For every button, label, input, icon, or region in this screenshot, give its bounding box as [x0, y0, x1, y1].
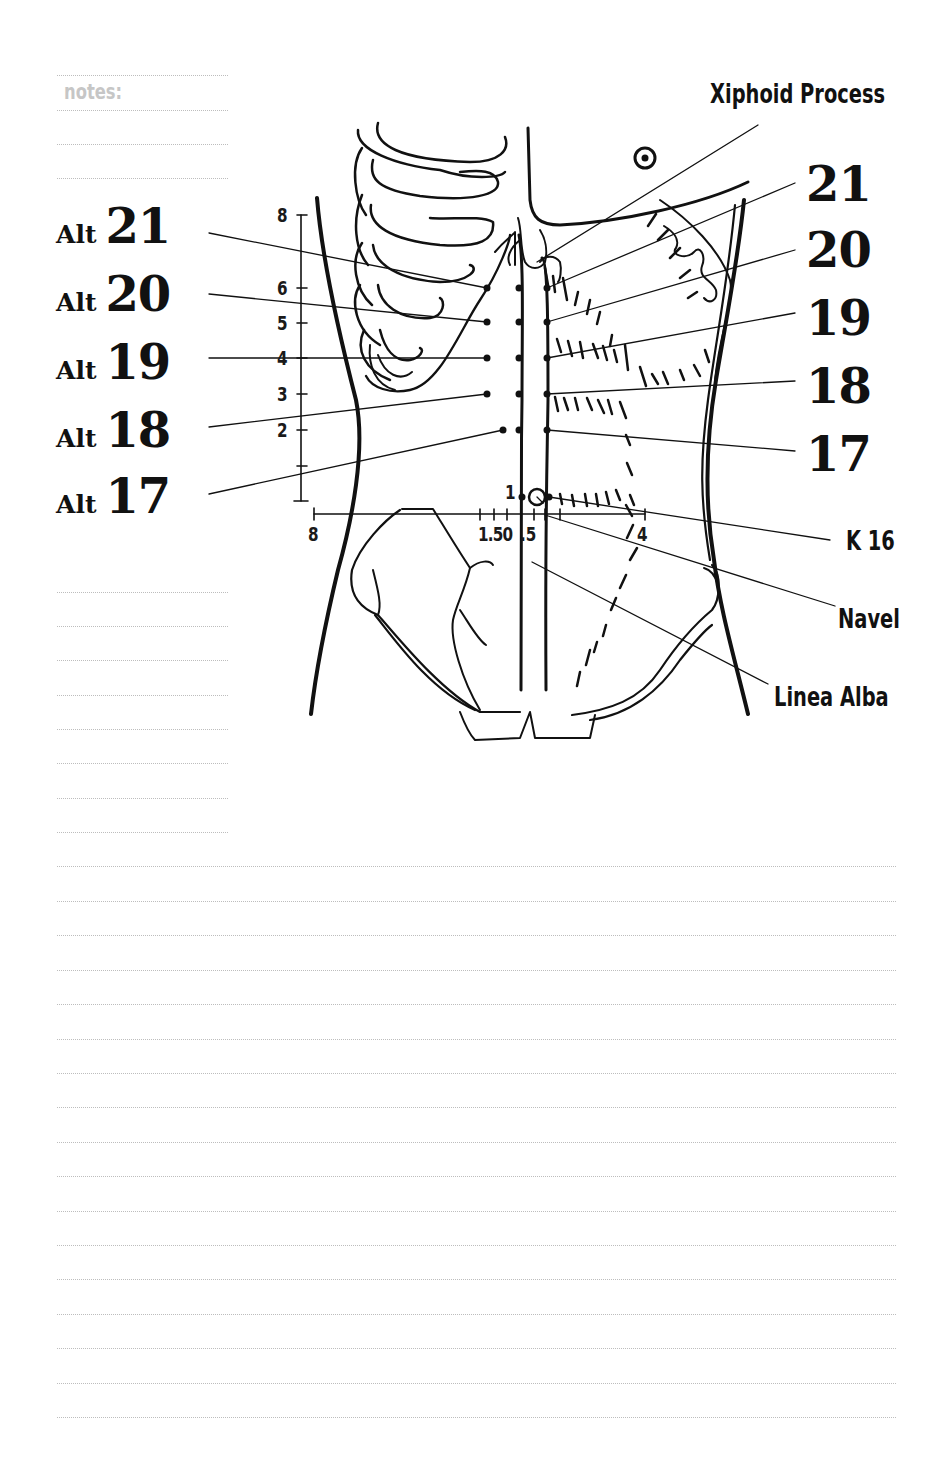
costal-margin: [366, 235, 510, 391]
acupoint-dots: [484, 285, 553, 501]
alt-17-label: Alt 17: [56, 468, 170, 524]
alt-number: 21: [105, 198, 170, 254]
note-line[interactable]: [57, 901, 896, 902]
note-line[interactable]: [57, 1039, 896, 1040]
note-line[interactable]: [57, 763, 228, 764]
h-scale-label-8: 8: [308, 523, 319, 545]
note-line[interactable]: [57, 970, 896, 971]
alt-prefix: Alt: [56, 490, 96, 519]
v-scale-label-5: 5: [277, 312, 288, 334]
xiphoid-process-label: Xiphoid Process: [710, 78, 885, 109]
linea-alba-label: Linea Alba: [774, 681, 889, 712]
rib-cage: [377, 123, 506, 162]
k16-label: K 16: [846, 525, 895, 556]
navel-level-label: 1: [505, 481, 516, 503]
h-scale-label-1-5: 1.50: [478, 523, 512, 545]
v-scale-label-3: 3: [277, 383, 288, 405]
note-line[interactable]: [57, 832, 228, 833]
alt-21-label: Alt 21: [56, 198, 170, 254]
v-scale-label-4: 4: [277, 347, 288, 369]
note-line[interactable]: [57, 1348, 896, 1349]
v-scale-label-8: 8: [277, 204, 288, 226]
note-line[interactable]: [57, 798, 228, 799]
note-line[interactable]: [57, 1383, 896, 1384]
horizontal-scale: [314, 508, 645, 520]
alt-prefix: Alt: [56, 220, 96, 249]
note-line[interactable]: [57, 1245, 896, 1246]
torso-outline-right: [707, 200, 748, 714]
alt-20-label: Alt 20: [56, 266, 170, 322]
alt-number: 20: [105, 266, 170, 322]
note-line[interactable]: [57, 1142, 896, 1143]
note-line[interactable]: [57, 866, 896, 867]
note-line[interactable]: [57, 1107, 896, 1108]
point-21-label: 21: [806, 156, 871, 212]
alt-number: 17: [105, 468, 170, 524]
note-line[interactable]: [57, 1314, 896, 1315]
h-scale-label-4: 4: [637, 523, 648, 545]
note-line[interactable]: [57, 1004, 896, 1005]
v-scale-label-6: 6: [277, 277, 288, 299]
alt-19-label: Alt 19: [56, 334, 170, 390]
point-20-label: 20: [806, 222, 871, 278]
note-line[interactable]: [57, 1211, 896, 1212]
point-17-label: 17: [806, 426, 871, 482]
alt-prefix: Alt: [56, 424, 96, 453]
alt-prefix: Alt: [56, 288, 96, 317]
note-line[interactable]: [57, 1073, 896, 1074]
alt-number: 19: [105, 334, 170, 390]
note-line[interactable]: [57, 1176, 896, 1177]
point-18-label: 18: [806, 358, 871, 414]
point-19-label: 19: [806, 290, 871, 346]
alt-prefix: Alt: [56, 356, 96, 385]
torso-outline-left: [311, 198, 359, 714]
notes-page: notes:: [0, 0, 950, 1468]
alt-18-label: Alt 18: [56, 402, 170, 458]
note-line[interactable]: [57, 1279, 896, 1280]
navel-label: Navel: [838, 603, 900, 634]
note-line[interactable]: [57, 935, 896, 936]
alt-number: 18: [105, 402, 170, 458]
sternum: [528, 128, 748, 225]
muscle-hatching: [545, 214, 709, 686]
note-line[interactable]: [57, 1417, 896, 1418]
h-scale-label-0-5: .5: [520, 523, 536, 545]
linea-alba-left: [519, 235, 522, 690]
v-scale-label-2: 2: [277, 419, 288, 441]
